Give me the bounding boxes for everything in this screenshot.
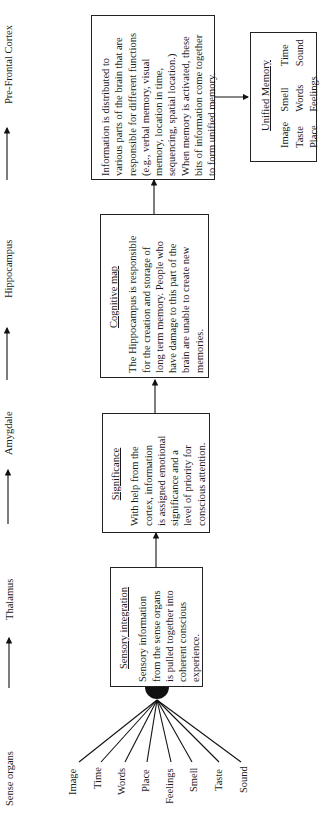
memory-item: Time (278, 39, 291, 66)
box-line: When memory is activated, these (179, 18, 192, 176)
sense-label-feelings: Feelings (164, 768, 175, 804)
box-line: is pulled together into (163, 574, 176, 682)
box-line: conscious attention. (195, 422, 208, 526)
sense-label-taste: Taste (213, 769, 224, 791)
stage-label-prefrontal-cortex: Pre-Frontal Cortex (3, 25, 14, 104)
box-line: significance and a (168, 422, 181, 526)
box-title: Sensory integration (117, 574, 130, 682)
box-distributed-information: Information is distributed to various pa… (91, 15, 215, 180)
box-line: coherent conscious (176, 574, 189, 682)
box-line: Information is distributed to (99, 18, 112, 176)
box-line: brain are unable to create new (179, 221, 192, 373)
sense-label-time: Time (92, 767, 103, 789)
box-line: memory, location in time, (152, 18, 165, 176)
box-line: long term memory. People who (153, 221, 166, 373)
memory-item: Smell (278, 76, 291, 112)
box-line: Sensory information (136, 574, 149, 682)
box-line: cortex, information (142, 422, 155, 526)
box-title: Unified Memory (259, 43, 272, 148)
sense-label-image: Image (67, 769, 78, 795)
sense-label-smell: Smell (188, 767, 199, 792)
sense-label-sound: Sound (238, 766, 249, 793)
box-line: experience. (189, 574, 202, 682)
box-title: Significance (109, 422, 122, 526)
box-line: With help from the (128, 422, 141, 526)
stage-label-amygdale: Amygdale (3, 411, 14, 455)
box-line: level of priority for (181, 422, 194, 526)
memory-item: Image (278, 122, 291, 148)
memory-item: Place (307, 122, 320, 148)
box-line: have damage to this part of the (166, 221, 179, 373)
stage-label-sense-organs: Sense organs (4, 751, 15, 806)
box-line: from the sense organs (150, 574, 163, 682)
box-significance: Significance With help from the cortex, … (102, 413, 210, 533)
box-line: bits of information come together (192, 18, 205, 176)
box-title: Cognitive map (107, 221, 120, 373)
box-line: is assigned emotional (155, 422, 168, 526)
sense-label-place: Place (140, 769, 151, 792)
memory-item: Feelings (307, 76, 320, 112)
box-line: memories. (193, 221, 206, 373)
box-sensory-integration: Sensory integration Sensory information … (110, 567, 203, 687)
box-line: (e.g., verbal memory, visual (139, 18, 152, 176)
memory-item (307, 39, 320, 66)
sense-label-words: Words (116, 768, 127, 795)
box-line: responsible for different functions (126, 18, 139, 176)
stage-label-thalamus: Thalamus (4, 579, 15, 620)
box-cognitive-map: Cognitive map The Hippocampus is respons… (100, 214, 209, 378)
box-line: various parts of the brain that are (112, 18, 125, 176)
memory-item: Words (293, 76, 306, 112)
stage-label-hippocampus: Hippocampus (3, 240, 14, 298)
box-line: to form unified memory. (205, 18, 218, 176)
box-line: The Hippocampus is responsible (126, 221, 139, 373)
memory-item: Sound (293, 39, 306, 66)
memory-item: Taste (293, 122, 306, 148)
unified-memory-items: Image Smell Time Taste Words Sound Place… (278, 43, 320, 148)
hub-node (145, 687, 169, 699)
box-line: sequencing, spatial location.) (165, 18, 178, 176)
box-unified-memory: Unified Memory Image Smell Time Taste Wo… (250, 32, 317, 162)
box-line: for the creation and storage of (140, 221, 153, 373)
